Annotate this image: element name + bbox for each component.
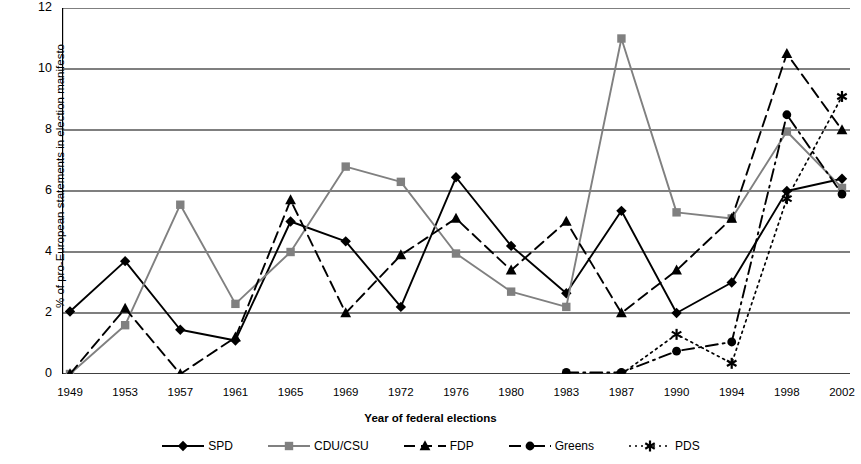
square-marker [176, 201, 184, 209]
x-tick-label: 1965 [261, 386, 321, 398]
legend-swatch [628, 438, 672, 454]
y-tick-label: 12 [26, 1, 52, 13]
x-tick-label: 1957 [150, 386, 210, 398]
x-tick-label: 1949 [40, 386, 100, 398]
circle-marker [838, 190, 847, 199]
series-fdp [65, 48, 848, 374]
y-tick-label: 8 [26, 123, 52, 135]
chart-figure: % of pro-European statements in election… [0, 0, 861, 464]
x-tick-label: 1969 [316, 386, 376, 398]
legend-swatch [267, 438, 311, 454]
x-tick-label: 1994 [702, 386, 762, 398]
x-tick-label: 1972 [371, 386, 431, 398]
x-tick-label: 1983 [536, 386, 596, 398]
triangle-marker [120, 303, 131, 313]
asterisk-marker [727, 358, 737, 369]
square-marker [231, 300, 239, 308]
circle-marker [782, 110, 791, 119]
diamond-marker [178, 441, 188, 451]
legend-item-fdp[interactable]: FDP [403, 438, 474, 454]
triangle-marker [781, 48, 792, 58]
x-tick-label: 2002 [812, 386, 861, 398]
square-marker [342, 162, 350, 170]
triangle-marker [285, 194, 296, 204]
legend-swatch [161, 438, 205, 454]
triangle-marker [395, 249, 406, 259]
legend-label: FDP [450, 439, 474, 453]
asterisk-marker [672, 329, 682, 340]
legend-label: SPD [208, 439, 233, 453]
square-marker [121, 321, 129, 329]
legend-swatch [508, 438, 552, 454]
triangle-marker [837, 124, 848, 134]
square-marker [507, 287, 515, 295]
diamond-marker [727, 277, 737, 287]
triangle-marker [451, 213, 462, 223]
legend-swatch [403, 438, 447, 454]
y-tick-label: 6 [26, 184, 52, 196]
x-axis-title: Year of federal elections [0, 412, 861, 424]
circle-marker [525, 442, 534, 451]
diamond-marker [837, 174, 847, 184]
x-tick-label: 1998 [757, 386, 817, 398]
square-marker [562, 303, 570, 311]
asterisk-marker [617, 369, 627, 375]
circle-marker [672, 347, 681, 356]
square-marker [285, 442, 293, 450]
diamond-marker [616, 206, 626, 216]
legend-item-greens[interactable]: Greens [508, 438, 594, 454]
circle-marker [727, 338, 736, 347]
x-tick-label: 1976 [426, 386, 486, 398]
circle-marker [562, 368, 571, 374]
y-tick-label: 10 [26, 62, 52, 74]
legend-item-pds[interactable]: PDS [628, 438, 700, 454]
legend-label: Greens [555, 439, 594, 453]
series-line [621, 96, 842, 374]
square-marker [617, 34, 625, 42]
series-cdu-csu [66, 34, 846, 374]
asterisk-marker [837, 91, 847, 102]
x-tick-label: 1987 [591, 386, 651, 398]
x-tick-label: 1990 [647, 386, 707, 398]
triangle-marker [561, 216, 572, 226]
square-marker [672, 208, 680, 216]
x-tick-label: 1953 [95, 386, 155, 398]
x-tick-label: 1961 [205, 386, 265, 398]
series-line [70, 39, 842, 375]
square-marker [286, 248, 294, 256]
legend-label: CDU/CSU [314, 439, 369, 453]
y-tick-label: 4 [26, 245, 52, 257]
triangle-marker [616, 307, 627, 317]
diamond-marker [285, 216, 295, 226]
y-tick-label: 2 [26, 306, 52, 318]
legend-item-cdu-csu[interactable]: CDU/CSU [267, 438, 369, 454]
square-marker [452, 249, 460, 257]
chart-legend: SPDCDU/CSUFDPGreensPDS [0, 438, 861, 454]
y-tick-label: 0 [26, 367, 52, 379]
legend-item-spd[interactable]: SPD [161, 438, 233, 454]
x-tick-label: 1980 [481, 386, 541, 398]
square-marker [397, 178, 405, 186]
legend-label: PDS [675, 439, 700, 453]
series-line [70, 177, 842, 340]
plot-area [62, 8, 852, 374]
diamond-marker [671, 308, 681, 318]
line-chart-svg [62, 8, 852, 374]
series-spd [65, 172, 847, 346]
